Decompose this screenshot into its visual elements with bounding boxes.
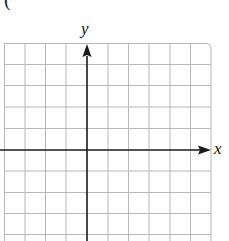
y-axis (83, 44, 92, 241)
x-axis (0, 146, 211, 155)
y-axis-label: y (81, 19, 89, 39)
grid-lines (5, 43, 212, 241)
y-axis-arrow-icon (83, 44, 92, 57)
x-axis-label: x (214, 139, 222, 159)
coordinate-grid (0, 0, 229, 241)
coordinate-plane-figure: ( (0, 0, 229, 241)
